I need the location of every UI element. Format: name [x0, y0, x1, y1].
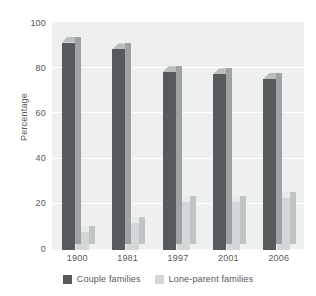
- legend-item-lone-parent-families[interactable]: Lone-parent families: [155, 274, 254, 284]
- legend-label: Couple families: [77, 274, 141, 284]
- bar-front-face: [213, 74, 226, 250]
- bar-2001-couple[interactable]: [213, 74, 226, 250]
- legend-swatch-icon: [63, 275, 72, 284]
- bar-front-face: [263, 79, 276, 250]
- bar-side-face: [125, 43, 131, 244]
- bar-side-face: [240, 196, 246, 244]
- bar-side-face: [176, 66, 182, 244]
- bar-front-face: [163, 72, 176, 250]
- bar-group: [62, 22, 95, 250]
- y-tick-label: 60: [12, 108, 46, 118]
- bar-1997-couple[interactable]: [163, 72, 176, 250]
- y-tick-label: 40: [12, 153, 46, 163]
- bar-front-face: [62, 43, 75, 250]
- bar-group: [112, 22, 145, 250]
- bar-1981-couple[interactable]: [112, 49, 125, 250]
- x-tick-label-1981: 1981: [102, 253, 152, 263]
- x-axis-tick-labels: 19001981199720012006: [52, 253, 304, 269]
- bar-front-face: [112, 49, 125, 250]
- x-tick-label-2006: 2006: [254, 253, 304, 263]
- bar-side-face: [276, 73, 282, 244]
- bar-group: [213, 22, 246, 250]
- x-tick-label-1997: 1997: [153, 253, 203, 263]
- plot-inner: [52, 22, 304, 250]
- y-tick-label: 80: [12, 63, 46, 73]
- bar-1900-couple[interactable]: [62, 43, 75, 250]
- bar-2006-couple[interactable]: [263, 79, 276, 250]
- legend-label: Lone-parent families: [169, 274, 254, 284]
- bar-group: [263, 22, 296, 250]
- x-tick-label-2001: 2001: [203, 253, 253, 263]
- legend-item-couple-families[interactable]: Couple families: [63, 274, 141, 284]
- bar-side-face: [190, 196, 196, 244]
- bar-side-face: [75, 37, 81, 244]
- bar-chart: Percentage 100 80 60 40 20 0 19001981199…: [0, 0, 316, 296]
- legend: Couple families Lone-parent families: [0, 274, 316, 284]
- bar-side-face: [89, 226, 95, 244]
- bar-side-face: [139, 217, 145, 244]
- y-tick-label: 100: [12, 18, 46, 28]
- legend-swatch-icon: [155, 275, 164, 284]
- x-tick-label-1900: 1900: [52, 253, 102, 263]
- bar-side-face: [226, 68, 232, 244]
- y-tick-label: 20: [12, 198, 46, 208]
- y-tick-label: 0: [12, 244, 46, 254]
- plot-area: [52, 22, 304, 250]
- bar-group: [163, 22, 196, 250]
- bar-side-face: [290, 192, 296, 244]
